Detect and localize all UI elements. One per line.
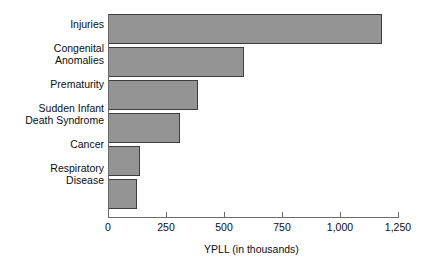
category-axis-labels: Injuries Congenital Anomalies Prematurit… [0, 14, 104, 217]
category-label-respiratory-disease: Respiratory Disease [0, 162, 104, 186]
x-axis-tick [166, 212, 167, 218]
category-label-congenital-anomalies: Congenital Anomalies [0, 42, 104, 66]
bar-cancer[interactable] [108, 146, 140, 176]
x-axis-title: YPLL (in thousands) [0, 243, 421, 255]
bar-sudden-infant-death-syndrome[interactable] [108, 113, 180, 143]
x-axis-tick-label: 1,000 [327, 221, 353, 233]
x-axis-tick [340, 212, 341, 218]
x-axis-tick [282, 212, 283, 218]
x-axis-tick [398, 212, 399, 218]
category-label-cancer: Cancer [0, 138, 104, 150]
x-axis-tick [224, 212, 225, 218]
x-axis-tick [108, 212, 109, 218]
bar-respiratory-disease[interactable] [108, 179, 137, 209]
bars-layer [108, 14, 398, 217]
category-label-injuries: Injuries [0, 18, 104, 30]
x-axis-tick-label: 250 [157, 221, 175, 233]
bar-injuries[interactable] [108, 14, 382, 44]
x-axis-tick-label: 1,250 [385, 221, 411, 233]
bar-prematurity[interactable] [108, 80, 198, 110]
category-label-prematurity: Prematurity [0, 78, 104, 90]
x-axis-tick-label: 0 [105, 221, 111, 233]
plot-area [108, 14, 398, 217]
x-axis-line [108, 217, 398, 218]
x-axis-title-text: YPLL (in thousands) [204, 243, 299, 255]
category-label-sudden-infant-death-syndrome: Sudden Infant Death Syndrome [0, 102, 104, 126]
y-axis-line [108, 14, 109, 217]
bar-chart: Injuries Congenital Anomalies Prematurit… [0, 0, 421, 269]
x-axis-tick-label: 500 [215, 221, 233, 233]
x-axis-tick-label: 750 [273, 221, 291, 233]
bar-congenital-anomalies[interactable] [108, 47, 244, 77]
